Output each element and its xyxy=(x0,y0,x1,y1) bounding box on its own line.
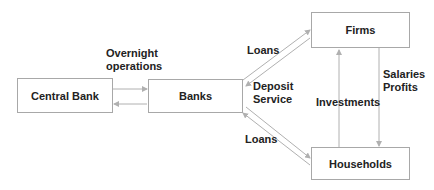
banks-node: Banks xyxy=(148,79,243,113)
deposit-label-line2: Service xyxy=(253,93,292,106)
households-label: Households xyxy=(329,158,392,170)
flow-diagram: Central Bank Banks Firms Households Over… xyxy=(0,0,434,190)
households-node: Households xyxy=(311,147,410,180)
salaries-label: Salaries xyxy=(383,68,425,81)
firms-label: Firms xyxy=(346,24,376,36)
investments-label: Investments xyxy=(316,96,380,109)
overnight-label-line1: Overnight xyxy=(106,47,158,60)
loans-firms-label: Loans xyxy=(247,44,279,57)
loans-households-label: Loans xyxy=(245,133,277,146)
firms-node: Firms xyxy=(311,12,410,48)
deposit-label-line1: Deposit xyxy=(253,80,293,93)
central-bank-label: Central Bank xyxy=(31,90,99,102)
banks-label: Banks xyxy=(179,90,212,102)
central-bank-node: Central Bank xyxy=(17,78,113,113)
overnight-label-line2: operations xyxy=(106,60,162,73)
profits-label: Profits xyxy=(383,81,418,94)
